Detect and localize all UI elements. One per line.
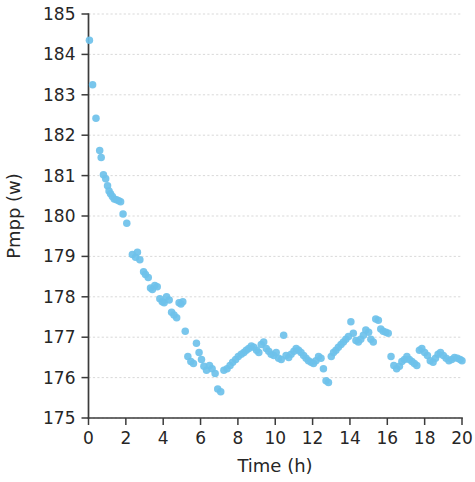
x-tick-label-10: 10 bbox=[264, 428, 286, 448]
data-point bbox=[89, 81, 97, 89]
y-tick-label-179: 179 bbox=[43, 246, 75, 266]
chart-canvas: 175176177178179180181182183184185 024681… bbox=[0, 0, 475, 482]
data-point bbox=[320, 365, 328, 373]
x-tick-label-18: 18 bbox=[414, 428, 436, 448]
data-point bbox=[260, 338, 268, 346]
data-point bbox=[165, 296, 173, 304]
data-point bbox=[195, 349, 203, 357]
y-tick-label-178: 178 bbox=[43, 287, 75, 307]
y-tick-label-176: 176 bbox=[43, 368, 75, 388]
data-point bbox=[387, 353, 395, 361]
data-point bbox=[117, 198, 125, 206]
data-point bbox=[179, 298, 187, 306]
y-axis-ticks: 175176177178179180181182183184185 bbox=[43, 4, 88, 428]
x-tick-label-16: 16 bbox=[376, 428, 398, 448]
data-point bbox=[350, 329, 358, 337]
data-point bbox=[280, 331, 288, 339]
data-point bbox=[86, 37, 94, 45]
data-point bbox=[123, 220, 131, 228]
x-tick-label-4: 4 bbox=[158, 428, 169, 448]
data-point bbox=[217, 388, 225, 396]
data-point bbox=[181, 327, 189, 335]
x-axis-ticks: 02468101214161820 bbox=[83, 418, 473, 448]
scatter-chart: 175176177178179180181182183184185 024681… bbox=[0, 0, 475, 482]
data-point bbox=[145, 274, 153, 282]
x-tick-label-0: 0 bbox=[83, 428, 94, 448]
data-point bbox=[375, 316, 383, 324]
data-point bbox=[347, 318, 355, 326]
data-point bbox=[119, 210, 127, 218]
x-tick-label-6: 6 bbox=[195, 428, 206, 448]
data-point bbox=[211, 370, 219, 378]
data-point bbox=[92, 114, 100, 122]
data-point bbox=[136, 256, 144, 264]
x-axis-title: Time (h) bbox=[236, 455, 312, 476]
data-point bbox=[96, 147, 104, 155]
x-tick-label-2: 2 bbox=[120, 428, 131, 448]
y-axis-title: Pmpp (w) bbox=[3, 173, 24, 259]
data-point bbox=[134, 249, 142, 256]
data-point bbox=[365, 329, 373, 337]
data-point bbox=[413, 362, 421, 370]
data-point bbox=[325, 379, 333, 387]
data-point bbox=[97, 154, 105, 162]
y-tick-label-181: 181 bbox=[43, 166, 75, 186]
x-tick-label-14: 14 bbox=[339, 428, 361, 448]
y-tick-label-184: 184 bbox=[43, 44, 75, 64]
y-tick-label-185: 185 bbox=[43, 4, 75, 24]
data-point bbox=[193, 340, 201, 348]
data-point bbox=[153, 283, 161, 291]
data-point bbox=[317, 354, 325, 362]
data-point bbox=[190, 360, 198, 368]
data-point bbox=[102, 175, 110, 183]
data-point bbox=[370, 338, 378, 346]
y-tick-label-182: 182 bbox=[43, 125, 75, 145]
x-tick-label-8: 8 bbox=[232, 428, 243, 448]
y-tick-label-183: 183 bbox=[43, 85, 75, 105]
y-tick-label-175: 175 bbox=[43, 408, 75, 428]
x-tick-label-20: 20 bbox=[451, 428, 473, 448]
data-point bbox=[458, 357, 466, 365]
data-point bbox=[198, 356, 206, 364]
data-point bbox=[384, 329, 392, 337]
data-point bbox=[255, 349, 263, 357]
x-tick-label-12: 12 bbox=[302, 428, 324, 448]
y-tick-label-177: 177 bbox=[43, 327, 75, 347]
y-tick-label-180: 180 bbox=[43, 206, 75, 226]
data-point bbox=[173, 314, 181, 322]
